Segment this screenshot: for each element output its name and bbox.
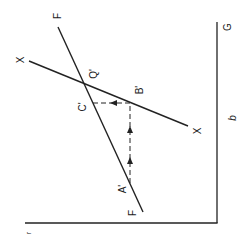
line-x — [29, 61, 188, 126]
label-b-prime: B' — [134, 86, 145, 95]
label-f-top: F — [52, 13, 63, 19]
label-r-axis: r — [25, 231, 32, 234]
label-x-bottom: X — [192, 127, 203, 134]
arrow-left-icon — [110, 100, 117, 106]
label-f-bottom: F — [127, 210, 138, 216]
label-b-axis: b — [227, 115, 238, 121]
line-f — [58, 27, 143, 212]
arrow-up-icon — [127, 157, 133, 164]
diagram-canvas: F F X X Q' B' C' A' G b r — [0, 0, 245, 246]
label-a-prime: A' — [117, 185, 128, 194]
label-c-prime: C' — [77, 102, 88, 111]
label-x-top: X — [15, 56, 26, 63]
label-g-axis: G — [222, 23, 233, 31]
arrow-up-icon — [127, 126, 133, 133]
label-q-prime: Q' — [88, 69, 99, 79]
